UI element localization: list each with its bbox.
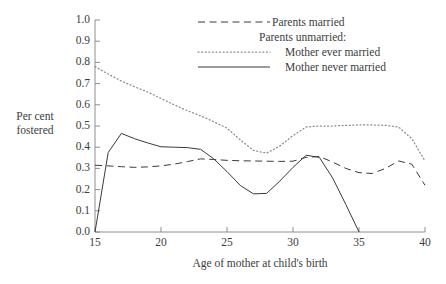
chart-figure: 0.00.10.20.30.40.50.60.70.80.91.0 152025… [0,0,446,284]
legend-item: Mother never married [196,59,444,74]
legend-key-solid-icon [196,60,272,74]
legend-key-dashed-icon [196,15,272,29]
data-series [95,67,425,232]
legend-label: Mother never married [272,60,386,74]
legend-label: Parents unmarried: [259,30,346,44]
legend-item: Parents unmarried: [196,29,444,44]
series-line [95,157,425,186]
chart-legend: Parents marriedParents unmarried:Mother … [196,14,444,74]
legend-key-dotted-icon [196,45,272,59]
legend-key-none-icon [196,30,259,44]
legend-item: Mother ever married [196,44,444,59]
series-line [95,67,425,161]
legend-item: Parents married [196,14,444,29]
series-line [95,133,359,232]
legend-label: Mother ever married [272,45,380,59]
legend-label: Parents married [272,15,345,29]
